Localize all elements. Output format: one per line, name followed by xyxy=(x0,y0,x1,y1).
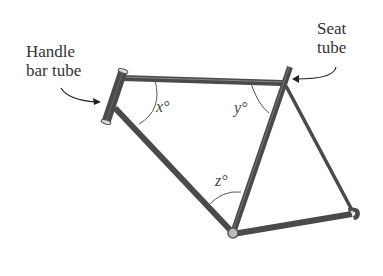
angle-y-label: y° xyxy=(234,99,248,117)
angle-z-label: z° xyxy=(215,172,228,190)
handlebar-label-line2: bar tube xyxy=(26,61,81,80)
seat-tube xyxy=(233,67,290,233)
handlebar-arrow xyxy=(61,88,96,102)
angle-arc-z xyxy=(208,192,241,206)
seat-tube-label-line2: tube xyxy=(317,38,346,57)
seat-tube-label-line1: Seat xyxy=(317,19,346,38)
top-tube xyxy=(122,78,282,83)
seat-tube-arrow xyxy=(296,67,336,79)
angle-arc-y xyxy=(250,81,269,113)
chain-stay xyxy=(233,214,352,234)
bicycle-frame-diagram: Handle bar tube Seat tube x° y° z° xyxy=(0,0,383,276)
angle-arc-x xyxy=(139,80,157,124)
down-tube xyxy=(115,108,233,233)
bottom-bracket xyxy=(228,228,238,238)
angle-x-label: x° xyxy=(156,98,170,116)
handlebar-label-line1: Handle xyxy=(26,42,75,61)
seat-stay xyxy=(286,86,353,212)
